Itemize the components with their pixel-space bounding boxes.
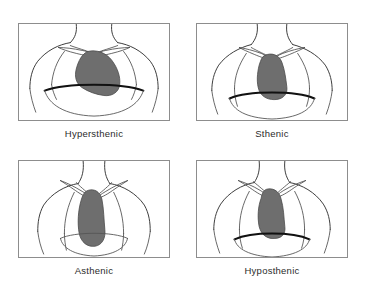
thorax-hypersthenic-icon xyxy=(18,23,170,121)
thorax-sthenic-icon xyxy=(196,23,348,121)
panel-caption: Hyposthenic xyxy=(244,265,299,276)
thorax-hyposthenic-icon xyxy=(196,160,348,258)
thorax-asthenic-icon xyxy=(18,160,170,258)
panel-caption: Hypersthenic xyxy=(65,128,123,139)
panel-hyposthenic: Hyposthenic xyxy=(196,160,348,276)
panel-caption: Asthenic xyxy=(75,265,113,276)
panel-sthenic: Sthenic xyxy=(196,23,348,139)
panel-asthenic: Asthenic xyxy=(18,160,170,276)
body-habitus-figure: Hypersthenic xyxy=(0,0,374,292)
panel-hypersthenic: Hypersthenic xyxy=(18,23,170,139)
panel-caption: Sthenic xyxy=(255,128,288,139)
